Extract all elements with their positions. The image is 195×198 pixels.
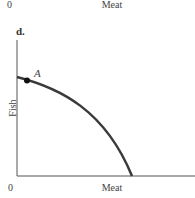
prev-origin-label: 0 xyxy=(7,0,12,10)
origin-label: 0 xyxy=(8,182,13,193)
y-axis-label: Fish xyxy=(7,99,18,116)
point-a-label: A xyxy=(33,67,41,79)
prev-x-axis-label: Meat xyxy=(102,0,123,10)
x-axis-label: Meat xyxy=(102,182,123,193)
ppf-curve xyxy=(17,77,132,176)
point-a-marker xyxy=(24,78,30,84)
chart-figure: 0 Meat d. A Fish 0 Meat xyxy=(0,0,195,198)
panel-label: d. xyxy=(16,25,25,37)
